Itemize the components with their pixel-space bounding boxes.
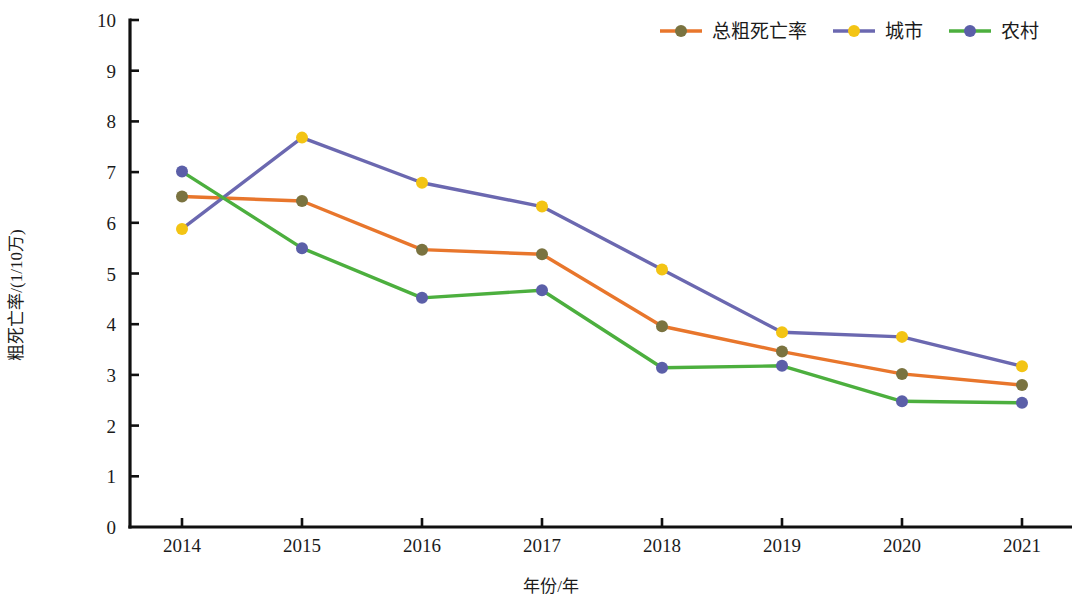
- data-point-marker[interactable]: [536, 201, 548, 213]
- data-point-marker[interactable]: [536, 284, 548, 296]
- y-axis-title: 粗死亡率/(1/10万): [7, 229, 26, 360]
- data-point-marker[interactable]: [896, 395, 908, 407]
- legend-item-1[interactable]: 总粗死亡率: [660, 21, 807, 42]
- x-tick-label: 2015: [283, 535, 321, 556]
- x-tick-label: 2014: [163, 535, 202, 556]
- y-tick-label: 3: [107, 365, 117, 386]
- data-point-marker[interactable]: [1016, 379, 1028, 391]
- y-tick-label: 6: [107, 213, 117, 234]
- legend-label: 农村: [1001, 21, 1039, 42]
- data-point-marker[interactable]: [416, 177, 428, 189]
- x-tick-label: 2019: [763, 535, 801, 556]
- data-point-marker[interactable]: [296, 195, 308, 207]
- y-tick-label: 2: [107, 416, 117, 437]
- data-point-marker[interactable]: [896, 368, 908, 380]
- data-point-marker[interactable]: [776, 360, 788, 372]
- data-point-marker[interactable]: [776, 326, 788, 338]
- y-tick-label: 0: [107, 517, 117, 538]
- legend-item-2[interactable]: 城市: [833, 21, 923, 42]
- data-point-marker[interactable]: [1016, 397, 1028, 409]
- data-point-marker[interactable]: [656, 362, 668, 374]
- y-tick-label: 5: [107, 264, 117, 285]
- series-markers-group: [176, 132, 1028, 409]
- series-line: [182, 172, 1022, 403]
- chart-legend[interactable]: 总粗死亡率城市农村: [660, 21, 1039, 42]
- x-tick-label: 2021: [1003, 535, 1041, 556]
- legend-item-3[interactable]: 农村: [949, 21, 1039, 42]
- y-tick-label: 10: [97, 10, 116, 31]
- series-line: [182, 196, 1022, 385]
- x-tick-label: 2018: [643, 535, 681, 556]
- series-lines-group: [182, 138, 1022, 403]
- y-tick-label: 9: [107, 61, 117, 82]
- data-point-marker[interactable]: [416, 244, 428, 256]
- y-tick-label: 7: [107, 162, 117, 183]
- y-tick-label: 1: [107, 466, 117, 487]
- data-point-marker[interactable]: [176, 166, 188, 178]
- x-axis-tick-labels: 20142015201620172018201920202021: [163, 535, 1041, 556]
- y-tick-label: 8: [107, 111, 117, 132]
- data-point-marker[interactable]: [296, 132, 308, 144]
- legend-marker-swatch: [848, 25, 860, 37]
- data-point-marker[interactable]: [656, 320, 668, 332]
- legend-label: 总粗死亡率: [712, 21, 807, 42]
- x-axis-title: 年份/年: [523, 577, 579, 596]
- data-point-marker[interactable]: [656, 263, 668, 275]
- x-tick-label: 2016: [403, 535, 441, 556]
- legend-label: 城市: [885, 21, 923, 42]
- line-chart-figure: 012345678910 201420152016201720182019202…: [0, 0, 1072, 605]
- y-axis-tick-labels: 012345678910: [97, 10, 117, 538]
- data-point-marker[interactable]: [416, 292, 428, 304]
- chart-svg: 012345678910 201420152016201720182019202…: [0, 0, 1072, 605]
- x-tick-label: 2020: [883, 535, 921, 556]
- data-point-marker[interactable]: [896, 331, 908, 343]
- data-point-marker[interactable]: [176, 190, 188, 202]
- legend-marker-swatch: [964, 25, 976, 37]
- data-point-marker[interactable]: [776, 346, 788, 358]
- data-point-marker[interactable]: [1016, 360, 1028, 372]
- legend-marker-swatch: [675, 25, 687, 37]
- data-point-marker[interactable]: [176, 223, 188, 235]
- data-point-marker[interactable]: [296, 242, 308, 254]
- data-point-marker[interactable]: [536, 248, 548, 260]
- y-tick-label: 4: [107, 314, 117, 335]
- x-tick-label: 2017: [523, 535, 561, 556]
